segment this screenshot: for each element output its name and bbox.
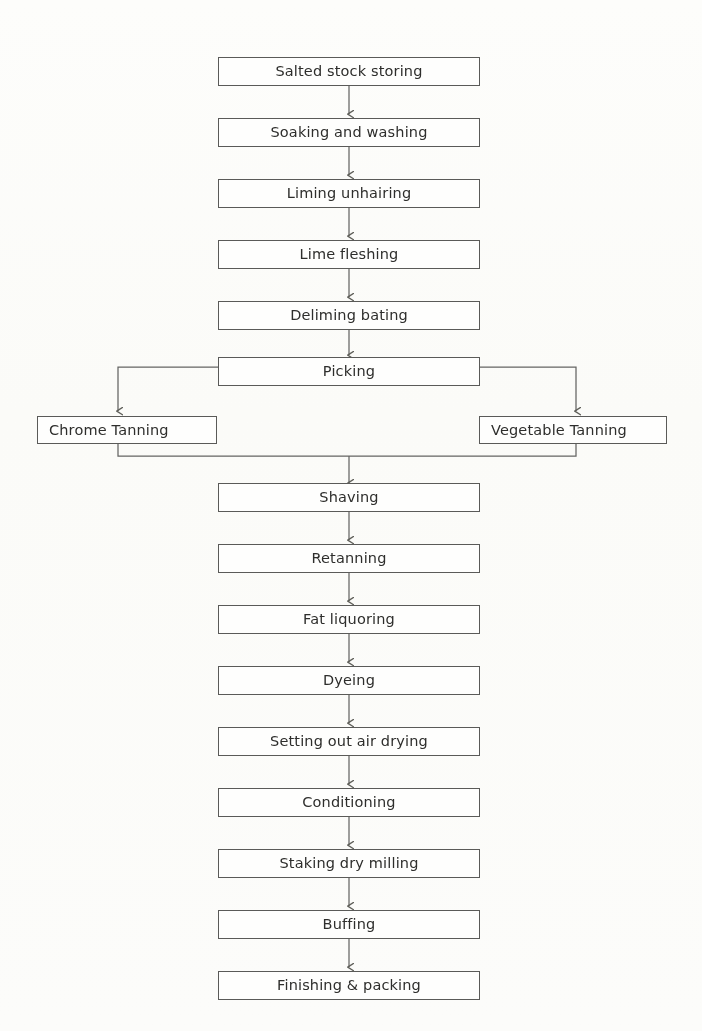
node-label: Staking dry milling bbox=[279, 856, 418, 871]
node-liming-unhairing[interactable]: Liming unhairing bbox=[218, 179, 480, 208]
node-label: Buffing bbox=[323, 917, 376, 932]
node-buffing[interactable]: Buffing bbox=[218, 910, 480, 939]
node-label: Deliming bating bbox=[290, 308, 408, 323]
branch-picking-to-vegetable bbox=[480, 367, 576, 411]
node-staking-dry-milling[interactable]: Staking dry milling bbox=[218, 849, 480, 878]
node-label: Finishing & packing bbox=[277, 978, 421, 993]
node-label: Chrome Tanning bbox=[45, 423, 173, 438]
node-label: Liming unhairing bbox=[287, 186, 412, 201]
node-lime-fleshing[interactable]: Lime fleshing bbox=[218, 240, 480, 269]
node-dyeing[interactable]: Dyeing bbox=[218, 666, 480, 695]
node-label: Shaving bbox=[319, 490, 378, 505]
node-label: Dyeing bbox=[323, 673, 375, 688]
node-finishing-and-packing[interactable]: Finishing & packing bbox=[218, 971, 480, 1000]
node-vegetable-tanning[interactable]: Vegetable Tanning bbox=[479, 416, 667, 444]
node-deliming-bating[interactable]: Deliming bating bbox=[218, 301, 480, 330]
node-label: Vegetable Tanning bbox=[487, 423, 631, 438]
node-picking[interactable]: Picking bbox=[218, 357, 480, 386]
node-shaving[interactable]: Shaving bbox=[218, 483, 480, 512]
node-fat-liquoring[interactable]: Fat liquoring bbox=[218, 605, 480, 634]
flowchart-canvas: Salted stock storing Soaking and washing… bbox=[0, 0, 702, 1031]
node-label: Lime fleshing bbox=[300, 247, 399, 262]
node-label: Conditioning bbox=[302, 795, 395, 810]
node-salted-stock-storing[interactable]: Salted stock storing bbox=[218, 57, 480, 86]
node-conditioning[interactable]: Conditioning bbox=[218, 788, 480, 817]
node-label: Salted stock storing bbox=[275, 64, 422, 79]
node-label: Soaking and washing bbox=[270, 125, 427, 140]
node-label: Picking bbox=[323, 364, 375, 379]
merge-tanning-rail bbox=[118, 444, 576, 456]
node-label: Setting out air drying bbox=[270, 734, 428, 749]
node-soaking-and-washing[interactable]: Soaking and washing bbox=[218, 118, 480, 147]
node-label: Retanning bbox=[311, 551, 386, 566]
node-setting-out-air-drying[interactable]: Setting out air drying bbox=[218, 727, 480, 756]
node-chrome-tanning[interactable]: Chrome Tanning bbox=[37, 416, 217, 444]
node-label: Fat liquoring bbox=[303, 612, 395, 627]
branch-picking-to-chrome bbox=[118, 367, 218, 411]
node-retanning[interactable]: Retanning bbox=[218, 544, 480, 573]
